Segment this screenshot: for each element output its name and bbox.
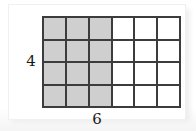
- grid-cell-shaded: [90, 63, 113, 86]
- grid-cell-empty: [113, 86, 136, 109]
- width-label: 6: [9, 112, 185, 127]
- grid-cell-empty: [158, 18, 181, 41]
- grid-cell-shaded: [44, 63, 67, 86]
- height-label: 4: [23, 54, 39, 69]
- grid-cell-shaded: [44, 41, 67, 64]
- grid-cell-shaded: [90, 86, 113, 109]
- grid-cell-empty: [158, 63, 181, 86]
- area-model-grid-wrapper: [42, 16, 181, 108]
- grid-cell-shaded: [67, 86, 90, 109]
- grid-cell-shaded: [90, 18, 113, 41]
- grid-cell-empty: [135, 86, 158, 109]
- area-model-grid: [42, 16, 181, 108]
- grid-cell-empty: [113, 41, 136, 64]
- grid-cell-empty: [135, 41, 158, 64]
- grid-cell-empty: [158, 41, 181, 64]
- grid-cell-empty: [113, 63, 136, 86]
- grid-cell-empty: [158, 86, 181, 109]
- grid-cell-empty: [135, 63, 158, 86]
- grid-cell-shaded: [67, 41, 90, 64]
- grid-cell-shaded: [44, 18, 67, 41]
- grid-cell-empty: [113, 18, 136, 41]
- figure-root: 4 6: [0, 0, 196, 131]
- grid-cell-shaded: [67, 18, 90, 41]
- figure-card: 4 6: [8, 4, 186, 120]
- grid-cell-shaded: [44, 86, 67, 109]
- grid-cell-empty: [135, 18, 158, 41]
- grid-cell-shaded: [90, 41, 113, 64]
- grid-cell-shaded: [67, 63, 90, 86]
